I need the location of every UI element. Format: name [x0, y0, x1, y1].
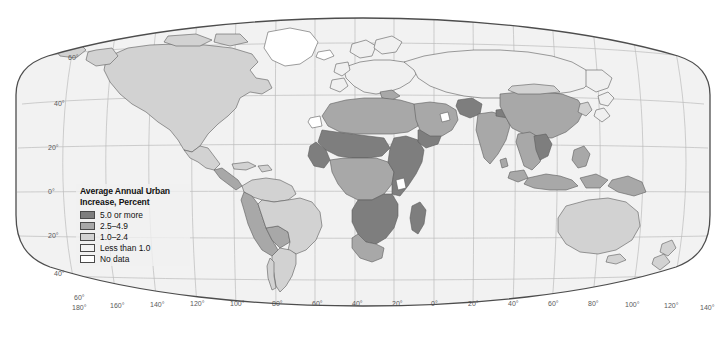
- legend-item-label: 2.5–4.9: [100, 221, 128, 231]
- lat-label-60s: 60°: [74, 294, 85, 301]
- lat-label-0: 0°: [48, 188, 55, 195]
- legend-item-label: No data: [100, 254, 129, 264]
- legend-swatch-icon: [80, 244, 95, 252]
- lon-label-120e: 120°: [664, 302, 679, 309]
- map-legend: Average Annual Urban Increase, Percent 5…: [76, 184, 190, 266]
- longitude-labels: 180° 160° 140° 120° 100° 80° 60° 40° 20°…: [72, 300, 715, 311]
- world-map-svg: 60° 40° 20° 0° 20° 40° 60° 180° 160° 140…: [0, 0, 726, 352]
- lon-label-100w: 100°: [230, 300, 245, 307]
- lon-label-60w: 60°: [312, 300, 323, 307]
- lon-label-80w: 80°: [272, 300, 283, 307]
- legend-swatch-icon: [80, 233, 95, 241]
- lon-label-100e: 100°: [625, 301, 640, 308]
- legend-item-25-49[interactable]: 2.5–4.9: [80, 220, 187, 231]
- legend-title-line1: Average Annual Urban: [80, 186, 187, 197]
- world-map-figure: 60° 40° 20° 0° 20° 40° 60° 180° 160° 140…: [0, 0, 726, 352]
- lat-label-20n: 20°: [48, 144, 59, 151]
- lon-label-40e: 40°: [508, 300, 519, 307]
- legend-item-10-24[interactable]: 1.0–2.4: [80, 231, 187, 242]
- lon-label-20w: 20°: [392, 300, 403, 307]
- lon-label-140e: 140°: [700, 304, 715, 311]
- lat-label-20s: 20°: [48, 232, 59, 239]
- legend-entries: 5.0 or more 2.5–4.9 1.0–2.4 Less than 1.…: [80, 209, 187, 264]
- legend-item-less-than-1[interactable]: Less than 1.0: [80, 242, 187, 253]
- legend-title-line2: Increase, Percent: [80, 197, 187, 208]
- legend-swatch-icon: [80, 222, 95, 230]
- lon-label-180w: 180°: [72, 304, 87, 311]
- lon-label-140w: 140°: [150, 301, 165, 308]
- legend-swatch-icon: [80, 211, 95, 219]
- region-north-africa: [322, 98, 420, 134]
- lat-label-60n: 60°: [68, 54, 79, 61]
- lon-label-0: 0°: [431, 300, 438, 307]
- legend-item-label: Less than 1.0: [100, 243, 150, 253]
- legend-item-label: 1.0–2.4: [100, 232, 128, 242]
- lon-label-40w: 40°: [352, 300, 363, 307]
- lon-label-80e: 80°: [588, 300, 599, 307]
- legend-item-label: 5.0 or more: [100, 210, 143, 220]
- lat-label-40n: 40°: [54, 100, 65, 107]
- legend-swatch-icon: [80, 255, 95, 263]
- lon-label-160w: 160°: [110, 302, 125, 309]
- lat-label-40s: 40°: [54, 270, 65, 277]
- legend-title: Average Annual Urban Increase, Percent: [80, 186, 187, 208]
- legend-item-5-or-more[interactable]: 5.0 or more: [80, 209, 187, 220]
- lon-label-20e: 20°: [468, 300, 479, 307]
- lon-label-120w: 120°: [190, 300, 205, 307]
- legend-item-no-data[interactable]: No data: [80, 253, 187, 264]
- lon-label-60e: 60°: [548, 300, 559, 307]
